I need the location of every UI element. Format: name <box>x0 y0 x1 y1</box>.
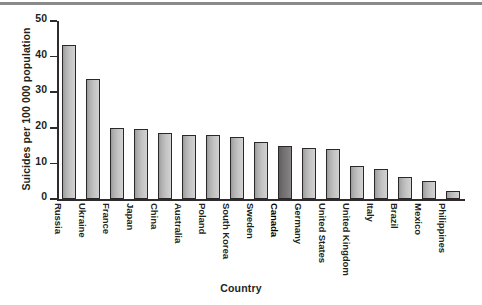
bar-slot <box>254 21 269 199</box>
bar-slot <box>326 21 341 199</box>
bar-china[interactable] <box>158 133 173 199</box>
bar-australia[interactable] <box>182 135 197 199</box>
x-tick-label-france: France <box>101 203 112 234</box>
bar-slot <box>182 21 197 199</box>
bar-poland[interactable] <box>206 135 221 199</box>
x-axis-title: Country <box>0 282 482 294</box>
x-tick-label-united-kingdom: United Kingdom <box>341 203 352 276</box>
bar-slot <box>62 21 77 199</box>
y-axis-tick: 20 <box>50 127 57 129</box>
bar-series <box>57 21 465 199</box>
y-axis-tick-label: 10 <box>35 155 47 167</box>
y-axis-tick-label: 40 <box>35 48 47 60</box>
plot-area: 01020304050 <box>57 21 465 199</box>
y-axis-title: Suicides per 100 000 population <box>20 9 32 209</box>
bar-slot <box>230 21 245 199</box>
x-tick-label-slot: Philippines <box>441 201 465 281</box>
x-tick-label-ukraine: Ukraine <box>77 203 88 238</box>
y-axis-tick: 30 <box>50 91 57 93</box>
bar-south-korea[interactable] <box>230 137 245 199</box>
x-tick-label-united-states: United States <box>317 203 328 263</box>
bar-slot <box>134 21 149 199</box>
bar-slot <box>110 21 125 199</box>
x-tick-label-sweden: Sweden <box>245 203 256 239</box>
bar-slot <box>158 21 173 199</box>
bar-japan[interactable] <box>134 129 149 199</box>
chart-figure: Suicides per 100 000 population 01020304… <box>0 0 482 305</box>
x-tick-label-australia: Australia <box>173 203 184 243</box>
x-tick-label-russia: Russia <box>53 203 64 234</box>
bar-slot <box>350 21 365 199</box>
bar-philippines[interactable] <box>446 191 461 199</box>
x-axis-tick-labels: RussiaUkraineFranceJapanChinaAustraliaPo… <box>57 201 465 281</box>
bar-slot <box>446 21 461 199</box>
bar-ukraine[interactable] <box>86 79 101 199</box>
x-tick-label-italy: Italy <box>365 203 376 222</box>
x-tick-label-japan: Japan <box>125 203 136 230</box>
bar-slot <box>86 21 101 199</box>
y-axis-tick: 0 <box>50 198 57 200</box>
y-axis-tick-label: 20 <box>35 119 47 131</box>
x-tick-label-brazil: Brazil <box>389 203 400 229</box>
x-tick-label-mexico: Mexico <box>413 203 424 235</box>
y-axis-tick: 10 <box>50 163 57 165</box>
y-axis-tick-label: 30 <box>35 83 47 95</box>
bar-sweden[interactable] <box>254 142 269 199</box>
bar-france[interactable] <box>110 128 125 199</box>
bar-united-states[interactable] <box>326 149 341 199</box>
y-axis-tick: 40 <box>50 56 57 58</box>
bar-slot <box>302 21 317 199</box>
x-tick-label-philippines: Philippines <box>437 203 448 253</box>
bar-mexico[interactable] <box>422 181 437 200</box>
x-tick-label-canada: Canada <box>269 203 280 237</box>
bar-united-kingdom[interactable] <box>350 166 365 199</box>
bar-slot <box>374 21 389 199</box>
bar-russia[interactable] <box>62 45 77 199</box>
bar-canada[interactable] <box>278 146 293 199</box>
x-tick-label-poland: Poland <box>197 203 208 234</box>
x-tick-label-china: China <box>149 203 160 229</box>
bar-slot <box>422 21 437 199</box>
y-axis-tick-label: 0 <box>41 190 47 202</box>
top-divider-rule <box>0 2 482 5</box>
y-axis-tick: 50 <box>50 20 57 22</box>
y-axis-tick-label: 50 <box>35 12 47 24</box>
bar-italy[interactable] <box>374 169 389 199</box>
x-tick-label-south-korea: South Korea <box>221 203 232 259</box>
bar-slot <box>398 21 413 199</box>
bar-slot <box>206 21 221 199</box>
bar-brazil[interactable] <box>398 177 413 199</box>
bar-slot <box>278 21 293 199</box>
x-tick-label-germany: Germany <box>293 203 304 244</box>
bar-germany[interactable] <box>302 148 317 199</box>
